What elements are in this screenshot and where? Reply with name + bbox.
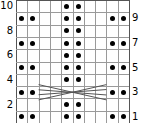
right-tick-label: 5	[132, 63, 145, 73]
chart-cell-dot	[110, 41, 115, 46]
chart-cell-dot	[30, 65, 35, 70]
chart-cell-dot	[64, 41, 69, 46]
chart-cell-dot	[76, 114, 81, 119]
right-tick-label: 3	[132, 87, 145, 97]
chart-cell-dot	[121, 90, 126, 95]
chart-cell-dot	[64, 53, 69, 58]
chart-grid	[16, 0, 129, 123]
chart-cell-dot	[64, 16, 69, 21]
left-tick-label: 4	[0, 75, 13, 85]
chart-cell-dot	[121, 41, 126, 46]
gridline-horizontal	[16, 12, 129, 13]
right-tick-label: 1	[132, 112, 145, 122]
chart-cell-dot	[76, 4, 81, 9]
gridline-horizontal	[16, 62, 129, 63]
right-tick-label: 7	[132, 38, 145, 48]
chart-cell-dot	[64, 102, 69, 107]
left-tick-label: 6	[0, 50, 13, 60]
left-tick-label: 8	[0, 26, 13, 36]
chart-cell-dot	[110, 114, 115, 119]
chart-cell-dot	[30, 16, 35, 21]
chart-cell-dot	[64, 77, 69, 82]
chart-cell-dot	[30, 90, 35, 95]
chart-cell-dot	[30, 41, 35, 46]
right-tick-label: 9	[132, 13, 145, 23]
left-tick-label: 10	[0, 1, 13, 11]
chart-cell-dot	[30, 114, 35, 119]
knitting-chart: 10864297531	[0, 0, 145, 123]
chart-cell-dot	[19, 41, 24, 46]
chart-cell-dot	[121, 114, 126, 119]
chart-cell-dot	[64, 4, 69, 9]
gridline-horizontal	[16, 98, 129, 99]
chart-cell-dot	[76, 28, 81, 33]
chart-cell-dot	[19, 65, 24, 70]
chart-cell-dot	[76, 16, 81, 21]
chart-cell-dot	[76, 65, 81, 70]
chart-cell-dot	[64, 28, 69, 33]
gridline-horizontal	[16, 86, 129, 87]
chart-cell-dot	[76, 41, 81, 46]
chart-cell-dot	[19, 90, 24, 95]
chart-cell-dot	[19, 114, 24, 119]
chart-cell-dot	[121, 65, 126, 70]
chart-cell-dot	[110, 16, 115, 21]
chart-cell-dot	[76, 102, 81, 107]
chart-cell-dot	[76, 77, 81, 82]
gridline-horizontal	[16, 111, 129, 112]
chart-cell-dot	[64, 114, 69, 119]
chart-cell-dot	[110, 90, 115, 95]
gridline-horizontal	[16, 49, 129, 50]
chart-cell-dot	[64, 65, 69, 70]
gridline-horizontal	[16, 37, 129, 38]
chart-cell-dot	[110, 65, 115, 70]
gridline-horizontal	[16, 25, 129, 26]
gridline-horizontal	[16, 74, 129, 75]
gridline-vertical	[129, 0, 130, 123]
left-tick-label: 2	[0, 100, 13, 110]
chart-cell-dot	[76, 53, 81, 58]
chart-cell-dot	[19, 16, 24, 21]
gridline-horizontal	[16, 0, 129, 1]
chart-cell-dot	[121, 16, 126, 21]
